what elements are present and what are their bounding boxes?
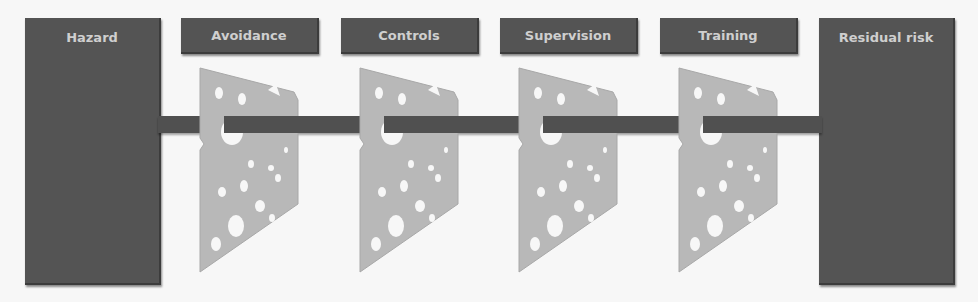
hazard-label: Hazard <box>25 30 159 45</box>
layer-label-supervision: Supervision <box>500 18 638 54</box>
layer-label-text: Supervision <box>500 28 636 43</box>
layer-label-avoidance: Avoidance <box>181 18 319 54</box>
rod-through-hole <box>384 116 517 133</box>
residual-risk-box: Residual risk <box>819 18 955 285</box>
rod-through-hole <box>703 116 819 133</box>
layer-label-text: Training <box>660 28 796 43</box>
cheese-slice-controls <box>358 66 462 276</box>
rod-through-hole <box>224 116 358 133</box>
hazard-box: Hazard <box>25 18 161 285</box>
cheese-slice-avoidance <box>198 66 302 276</box>
cheese-slice-supervision <box>517 66 621 276</box>
layer-label-controls: Controls <box>341 18 479 54</box>
cheese-slice-training <box>677 66 781 276</box>
layer-label-training: Training <box>660 18 798 54</box>
layer-label-text: Avoidance <box>181 28 317 43</box>
rod-through-hole <box>543 116 677 133</box>
residual-risk-label: Residual risk <box>819 30 953 45</box>
layer-label-text: Controls <box>341 28 477 43</box>
